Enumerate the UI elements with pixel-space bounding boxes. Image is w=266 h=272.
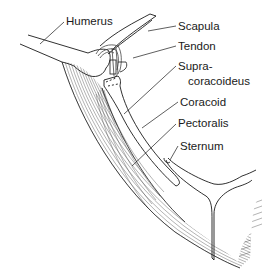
- pectoralis-outline: [62, 62, 240, 268]
- leader-coracoid: [142, 102, 178, 128]
- sternum-bone: [164, 158, 256, 260]
- leader-humerus: [40, 22, 64, 44]
- label-scapula: Scapula: [178, 21, 220, 33]
- label-tendon: Tendon: [178, 41, 216, 53]
- label-supracoracoideus-line1: Supra-: [178, 61, 213, 73]
- leader-tendon: [133, 46, 176, 58]
- leader-supra: [124, 66, 176, 114]
- label-humerus: Humerus: [66, 16, 113, 28]
- label-coracoid: Coracoid: [180, 97, 226, 109]
- leader-sternum: [170, 146, 178, 160]
- label-supracoracoideus-line2: coracoideus: [188, 76, 250, 88]
- label-sternum: Sternum: [180, 141, 223, 153]
- leader-scapula: [148, 26, 176, 31]
- pectoralis-muscle: [62, 62, 264, 268]
- label-pectoralis: Pectoralis: [178, 118, 229, 130]
- anatomy-diagram: [0, 0, 266, 272]
